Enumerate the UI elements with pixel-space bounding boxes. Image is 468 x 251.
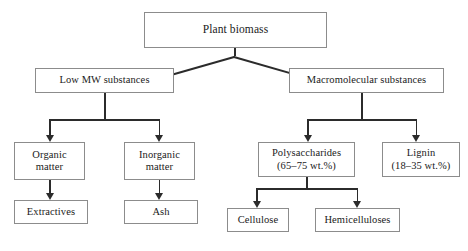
node-organic-matter[interactable]: Organic matter [14, 142, 85, 180]
node-inorganic-matter[interactable]: Inorganic matter [124, 142, 195, 180]
node-hemicelluloses[interactable]: Hemicelluloses [315, 208, 400, 232]
node-polysaccharides[interactable]: Polysaccharides (65–75 wt.%) [258, 142, 355, 177]
connector-low-mw-stem [104, 93, 106, 120]
arrowhead-macromolecular-to-polysaccharides [304, 135, 312, 142]
node-inorganic-matter-label-line2: matter [139, 161, 180, 173]
flowchart-canvas: Plant biomass Low MW substances Macromol… [0, 0, 468, 251]
connector-polysaccharides-stem [306, 177, 308, 189]
node-plant-biomass-label: Plant biomass [201, 23, 271, 37]
node-lignin-label-line1: Lignin [407, 147, 436, 158]
node-polysaccharides-label-line2: (65–75 wt.%) [272, 160, 341, 172]
connector-low-mw-drop-organic [49, 119, 51, 136]
node-hemicelluloses-label: Hemicelluloses [322, 214, 392, 226]
connector-low-mw-bar [49, 119, 160, 121]
node-cellulose[interactable]: Cellulose [227, 208, 289, 232]
node-low-mw-substances[interactable]: Low MW substances [35, 68, 174, 93]
node-cellulose-label: Cellulose [236, 214, 281, 226]
node-inorganic-matter-label-line1: Inorganic [139, 149, 180, 160]
connector-root-stem [234, 48, 236, 56]
arrowhead-low-mw-to-organic [46, 135, 54, 142]
connector-macromolecular-drop-polysaccharides [307, 119, 309, 136]
arrowhead-inorganic-to-ash [155, 193, 163, 200]
node-polysaccharides-label-line1: Polysaccharides [272, 147, 341, 158]
node-macromolecular-substances-label: Macromolecular substances [305, 74, 428, 86]
node-extractives-label: Extractives [25, 206, 77, 218]
connector-organic-to-extractives [49, 180, 51, 194]
connector-macromolecular-bar [307, 119, 417, 121]
arrowhead-macromolecular-to-lignin [412, 135, 420, 142]
node-organic-matter-label-line2: matter [32, 161, 66, 173]
node-ash[interactable]: Ash [124, 200, 198, 224]
node-macromolecular-substances[interactable]: Macromolecular substances [289, 68, 444, 93]
node-plant-biomass[interactable]: Plant biomass [144, 12, 327, 48]
arrowhead-polysaccharides-to-hemicelluloses [353, 201, 361, 208]
node-lignin-label-line2: (18–35 wt.%) [392, 160, 451, 172]
node-ash-label: Ash [150, 206, 171, 218]
arrowhead-low-mw-to-inorganic [155, 135, 163, 142]
connector-inorganic-to-ash [159, 180, 161, 194]
node-low-mw-substances-label: Low MW substances [57, 74, 151, 86]
connector-macromolecular-stem [361, 93, 363, 120]
connector-polysaccharides-bar [256, 188, 358, 190]
arrowhead-organic-to-extractives [46, 193, 54, 200]
arrowhead-polysaccharides-to-cellulose [253, 201, 261, 208]
connector-low-mw-drop-inorganic [159, 119, 161, 136]
connector-macromolecular-drop-lignin [416, 119, 418, 136]
node-lignin[interactable]: Lignin (18–35 wt.%) [382, 142, 460, 177]
node-extractives[interactable]: Extractives [14, 200, 88, 224]
node-organic-matter-label-line1: Organic [32, 149, 66, 160]
